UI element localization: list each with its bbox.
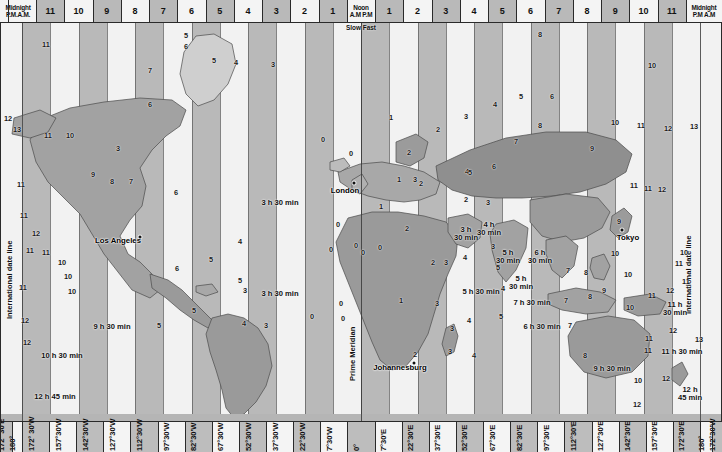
longitude-cell: 142°30'W [76,422,103,452]
longitude-label: 172°30'E [677,421,686,451]
longitude-label: 97°30'W [162,423,171,451]
top-axis-hour-7: 7 [149,0,177,22]
top-axis-noon: NoonA.M P.M [347,0,375,22]
longitude-divider [456,422,457,452]
land-greenland [180,34,236,106]
land-new-guinea [624,294,666,316]
land-africa [336,212,458,370]
top-axis-hour-r-1: 1 [375,0,403,22]
longitude-label: 22°30'E [406,425,415,451]
longitude-divider [293,422,294,452]
longitude-divider [49,422,50,452]
bottom-longitude-axis: 172° 30'E180°172° 30'W157°30'W142°30'W12… [0,421,722,452]
longitude-cell: 97°30'E [537,422,564,452]
land-indochina [546,236,578,278]
top-axis-hour-r-5: 5 [488,0,516,22]
noon-line2: A.M P.M [350,11,373,18]
longitude-divider [12,422,13,452]
prime-meridian-rule [361,22,362,421]
longitude-divider [76,422,77,452]
longitude-divider [158,422,159,452]
longitude-label: 37°30'W [271,423,280,451]
top-axis-divider [36,0,37,22]
top-axis-divider [516,0,517,22]
land-asia [436,132,632,198]
top-axis-hour-label: 1 [330,7,335,16]
longitude-label: 127°30'E [596,421,605,451]
longitude-cell: 127°30'E [592,422,619,452]
longitude-divider [537,422,538,452]
top-axis-divider [601,0,602,22]
top-axis-divider [149,0,150,22]
top-axis-hour-label: 10 [73,7,83,16]
top-axis-hour-r-11: 11 [658,0,686,22]
top-axis-divider [290,0,291,22]
slow-fast-label: Slow Fast [346,24,376,31]
top-axis-divider [347,0,348,22]
top-axis-hour-label: 10 [638,7,648,16]
world-time-zone-map: MidnightP.M.A.M.1110987654321NoonA.M P.M… [0,0,722,452]
longitude-cell: 97°30'W [158,422,185,452]
longitude-divider [239,422,240,452]
land-india [490,220,528,282]
longitude-divider [700,422,701,452]
longitude-label: 67°30'E [488,425,497,451]
land-central-america [150,274,214,328]
top-axis-hour-label: 11 [45,7,55,16]
longitude-label: 142°30'W [81,419,90,451]
longitude-label: 82°30'E [515,425,524,451]
longitude-cell: 22°30'W [293,422,320,452]
top-axis-hour-label: 2 [302,7,307,16]
longitude-divider [103,422,104,452]
top-axis-divider [64,0,65,22]
top-axis-hour-r-3: 3 [432,0,460,22]
longitude-cell: 37°30'E [429,422,456,452]
top-axis-hour-5: 5 [206,0,234,22]
longitude-divider [266,422,267,452]
midnight-right-line2: P.M A.M [693,11,715,18]
top-axis-divider [8,0,9,22]
longitude-divider [375,422,376,452]
longitude-divider [510,422,511,452]
longitude-label: 7°30'E [379,429,388,451]
top-axis-hour-r-6: 6 [516,0,544,22]
top-axis-hour-label: 11 [667,7,677,16]
longitude-label: 112°30'E [569,421,578,451]
longitude-label: 37°30'E [433,425,442,451]
top-axis-hour-label: 9 [613,7,618,16]
longitude-label: 67°30'W [216,423,225,451]
midnight-left-line2: P.M.A.M. [6,11,30,18]
top-axis-divider [629,0,630,22]
date-line-left-rule [22,22,23,421]
longitude-cell: 142°30'E [619,422,646,452]
longitude-label: 52°30'W [244,423,253,451]
top-axis-hour-label: 7 [161,7,166,16]
land-madagascar [442,324,458,356]
top-axis-divider [545,0,546,22]
top-axis-hour-11: 11 [36,0,64,22]
midnight-left-line1: Midnight [6,4,31,11]
top-axis-hour-r-4: 4 [460,0,488,22]
land-north-america [30,98,186,298]
longitude-divider [347,422,348,452]
top-axis-divider [375,0,376,22]
land-caribbean [196,284,218,296]
date-line-right-rule [700,22,701,421]
top-axis-hour-10: 10 [64,0,92,22]
longitude-divider [619,422,620,452]
longitude-cell: 82°30'E [510,422,537,452]
longitude-divider [130,422,131,452]
longitude-divider [483,422,484,452]
top-axis-hour-r-9: 9 [601,0,629,22]
top-axis-hour-label: 2 [415,7,420,16]
longitude-divider [646,422,647,452]
longitude-cell: 157°30'W [49,422,76,452]
top-axis-hour-r-8: 8 [573,0,601,22]
top-axis-divider [319,0,320,22]
longitude-cell: 172°30'E [673,422,700,452]
longitude-cell: 0° [347,422,374,452]
land-china [530,194,610,242]
longitude-cell: 180° [12,422,22,452]
longitude-label: 142°30'E [623,421,632,451]
top-axis-hour-9: 9 [93,0,121,22]
